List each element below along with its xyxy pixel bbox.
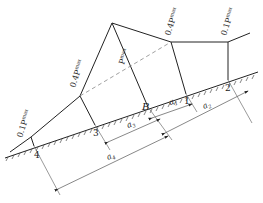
- dim-label-a4: a4: [105, 150, 116, 162]
- dim-a4: [58, 136, 168, 189]
- label-load-0-4-right: 0.4Pmax: [162, 6, 180, 37]
- label-load-0-1-right: 0.1Pmax: [218, 6, 236, 37]
- ordinate-4: [31, 137, 34, 146]
- ground-hatching: [6, 75, 254, 161]
- ordinate-1: [171, 42, 186, 94]
- ordinate-B: [112, 23, 148, 107]
- label-load-0-1-left: 0.1Pmax: [14, 108, 32, 139]
- point-label-3: 3: [93, 128, 99, 138]
- ordinate-3: [80, 96, 95, 125]
- load-distribution-diagram: 0.1Pmax 0.4Pmax Pmax 0.4Pmax 0.1Pmax 4 3…: [0, 0, 263, 203]
- dim-label-a3: a3: [125, 119, 136, 131]
- dim-a2: [165, 91, 248, 133]
- point-label-2: 2: [225, 83, 231, 93]
- ground-line: [5, 72, 258, 158]
- dim-label-a1: a1: [168, 96, 179, 108]
- label-load-0-4-left: 0.4Pmax: [67, 58, 85, 89]
- point-label-B: B: [141, 101, 149, 112]
- point-label-1: 1: [184, 96, 190, 106]
- point-label-4: 4: [34, 150, 40, 160]
